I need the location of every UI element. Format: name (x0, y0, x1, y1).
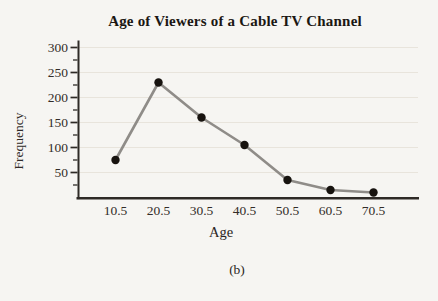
frequency-polygon-line (116, 83, 374, 193)
data-point (369, 188, 377, 196)
x-tick-label: 50.5 (276, 203, 300, 218)
data-point (154, 78, 162, 86)
y-tick-label: 200 (48, 90, 69, 105)
y-tick-label: 150 (48, 115, 69, 130)
y-tick-label: 50 (55, 165, 69, 180)
x-tick-label: 40.5 (233, 203, 257, 218)
x-tick-label: 30.5 (190, 203, 214, 218)
x-tick-label: 70.5 (362, 203, 386, 218)
figure-panel: Age of Viewers of a Cable TV Channel Fre… (0, 0, 438, 301)
x-tick-label: 20.5 (147, 203, 171, 218)
data-point (111, 156, 119, 164)
frequency-polygon-chart: 5010015020025030010.520.530.540.550.560.… (0, 0, 438, 301)
data-point (240, 141, 248, 149)
x-tick-label: 60.5 (319, 203, 343, 218)
y-tick-label: 300 (48, 40, 69, 55)
x-axis-label: Age (4, 224, 438, 241)
y-tick-label: 100 (48, 140, 69, 155)
data-point (283, 176, 291, 184)
data-point (326, 186, 334, 194)
y-tick-label: 250 (48, 65, 69, 80)
figure-caption: (b) (36, 262, 438, 278)
x-tick-label: 10.5 (104, 203, 128, 218)
data-point (197, 113, 205, 121)
